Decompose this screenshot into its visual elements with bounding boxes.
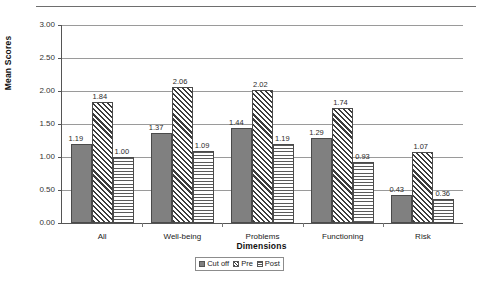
legend-box: Cut offPrePost — [195, 257, 284, 271]
y-axis-tick-label: 0.50 — [15, 186, 55, 194]
bar-value-label: 0.43 — [389, 186, 404, 194]
y-axis-tick-label: 3.00 — [15, 21, 55, 29]
bar-value-label: 1.37 — [149, 124, 164, 132]
x-axis-tick — [383, 223, 384, 227]
bar-post[interactable] — [353, 162, 374, 223]
bar-group: 1.372.061.09Well-being — [151, 25, 214, 223]
y-axis-tick-label: 0.00 — [15, 219, 55, 227]
top-divider-rule — [36, 6, 476, 7]
bar-cut-off[interactable] — [151, 133, 172, 223]
y-axis-title: Mean Scores — [3, 3, 13, 123]
bar-cut-off[interactable] — [311, 138, 332, 223]
legend-item-label: Cut off — [207, 259, 229, 268]
chart-legend: Cut offPrePost — [0, 257, 479, 271]
bar-value-label: 0.36 — [435, 190, 450, 198]
y-axis-tick-label: 2.50 — [15, 54, 55, 62]
bar-value-label: 1.19 — [275, 135, 290, 143]
bar-group: 1.442.021.19Problems — [231, 25, 294, 223]
y-axis-tick — [58, 223, 62, 224]
y-axis-tick — [58, 91, 62, 92]
bar-value-label: 1.07 — [413, 143, 428, 151]
bar-value-label: 2.02 — [253, 81, 268, 89]
bar-pre[interactable] — [252, 90, 273, 223]
bar-value-label: 1.84 — [93, 93, 108, 101]
bar-value-label: 2.06 — [173, 78, 188, 86]
bar-post[interactable] — [193, 151, 214, 223]
y-axis-tick — [58, 25, 62, 26]
bar-group: 1.191.841.00All — [71, 25, 134, 223]
bar-value-label: 0.93 — [355, 153, 370, 161]
legend-item-post[interactable]: Post — [257, 259, 280, 268]
bar-value-label: 1.00 — [115, 148, 130, 156]
bar-group: 0.431.070.36Risk — [391, 25, 454, 223]
y-axis-tick — [58, 124, 62, 125]
y-axis-tick — [58, 157, 62, 158]
y-axis-tick-label: 1.50 — [15, 120, 55, 128]
bar-value-label: 1.19 — [69, 135, 84, 143]
bar-group: 1.291.740.93Functioning — [311, 25, 374, 223]
bar-cut-off[interactable] — [71, 144, 92, 223]
bar-value-label: 1.74 — [333, 99, 348, 107]
x-axis-category-label: Risk — [368, 232, 478, 241]
legend-item-cut-off[interactable]: Cut off — [199, 259, 229, 268]
y-axis-tick — [58, 58, 62, 59]
y-axis-tick-label: 2.00 — [15, 87, 55, 95]
bar-cut-off[interactable] — [231, 128, 252, 223]
bar-pre[interactable] — [412, 152, 433, 223]
legend-swatch-icon — [257, 261, 263, 267]
plot-area: 0.000.501.001.502.002.503.001.191.841.00… — [61, 25, 463, 224]
bar-value-label: 1.09 — [195, 142, 210, 150]
x-axis-title: Dimensions — [61, 241, 462, 251]
bar-pre[interactable] — [172, 87, 193, 223]
legend-swatch-icon — [199, 261, 205, 267]
chart-page: 0.000.501.001.502.002.503.001.191.841.00… — [0, 0, 479, 283]
bar-post[interactable] — [273, 144, 294, 223]
bar-value-label: 1.29 — [309, 129, 324, 137]
bar-value-label: 1.44 — [229, 119, 244, 127]
x-axis-tick — [303, 223, 304, 227]
legend-item-pre[interactable]: Pre — [233, 259, 253, 268]
x-axis-tick — [142, 223, 143, 227]
bar-cut-off[interactable] — [391, 195, 412, 223]
x-axis-tick — [222, 223, 223, 227]
bar-post[interactable] — [113, 157, 134, 223]
y-axis-tick-label: 1.00 — [15, 153, 55, 161]
y-axis-tick — [58, 190, 62, 191]
legend-swatch-icon — [233, 261, 239, 267]
bar-pre[interactable] — [332, 108, 353, 223]
bar-post[interactable] — [433, 199, 454, 223]
legend-item-label: Post — [265, 259, 280, 268]
legend-item-label: Pre — [241, 259, 253, 268]
bar-pre[interactable] — [92, 102, 113, 223]
